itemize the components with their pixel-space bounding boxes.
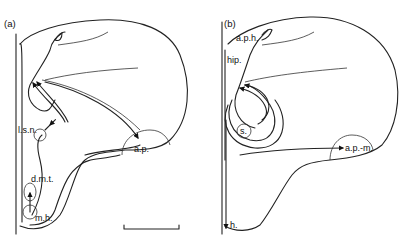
panel-b: (b) a.p.h. hip. s. a.p.-m. h. [222,17,398,234]
panel-a-arrow-2 [37,82,68,122]
s-label: s. [240,126,247,136]
panel-b-label: (b) [224,18,236,29]
panel-a-fiber-2 [45,68,138,80]
panel-a-fold [28,33,62,111]
ap-label: a.p. [134,144,149,154]
scale-bar [124,225,179,229]
panel-a-label: (a) [4,18,16,29]
apm-label: a.p.-m. [345,143,373,153]
panel-a-fiber-1 [58,32,108,45]
panel-b-fiber-2 [245,68,347,82]
h-label: h. [230,220,238,230]
aph-label: a.p.h. [236,33,259,43]
panel-a: (a) l.s.n. a.p. d.m.t. m.h. [4,18,187,234]
mh-label: m.h. [35,213,53,223]
panel-a-arrow-1 [33,83,65,122]
panel-a-fold-tip [55,32,65,41]
panel-a-arrow-to-ap [45,82,138,138]
panel-a-hemisphere-outline [20,20,187,229]
panel-b-arrow-to-apm [240,148,343,155]
brain-pathway-diagram: (a) l.s.n. a.p. d.m.t. m.h. [0,0,406,247]
panel-a-lsn-arrow [45,120,55,130]
lsn-label: l.s.n. [18,125,37,135]
hip-label: hip. [227,55,242,65]
panel-b-hemisphere-outline [225,17,398,230]
